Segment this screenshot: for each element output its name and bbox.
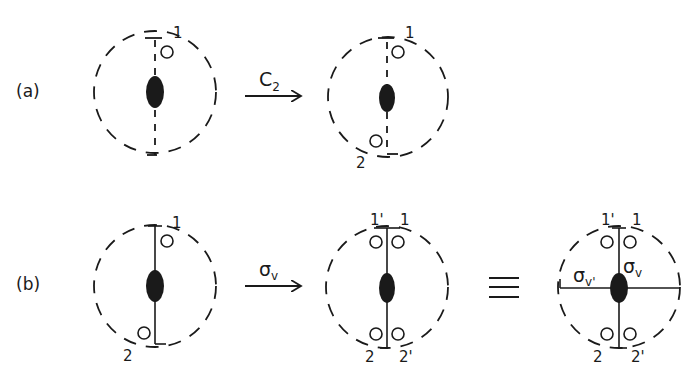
- ligand-circle-1: [161, 235, 173, 247]
- ligand-label-2: 2: [123, 347, 133, 365]
- ligand-label-2-prime: 2': [399, 348, 413, 366]
- ligand-label-1-prime: 1': [370, 211, 384, 229]
- ligand-label-1: 1: [632, 211, 642, 229]
- ligand-circle-2: [138, 327, 150, 339]
- row-label-a: (a): [16, 81, 40, 101]
- ligand-label-2-prime: 2': [631, 348, 645, 366]
- central-atom: [146, 270, 164, 302]
- ligand-circle-2-prime: [392, 328, 404, 340]
- orbital-diagram-a-before: 1: [94, 24, 216, 155]
- ligand-circle-1: [392, 236, 404, 248]
- equivalence-symbol: [489, 278, 519, 297]
- ligand-circle-1: [161, 46, 173, 58]
- ligand-label-2: 2: [593, 348, 603, 366]
- orbital-diagram-b-equivalent: 1' 1 2 2' σv σv': [558, 211, 680, 366]
- ligand-circle-2: [370, 135, 382, 147]
- operation-symbol: σv: [259, 258, 278, 283]
- ligand-label-2: 2: [356, 154, 366, 172]
- ligand-label-1: 1: [405, 24, 415, 42]
- operation-symbol: C2: [259, 68, 280, 94]
- orbital-diagram-b-after: 1' 1 2 2': [326, 211, 448, 366]
- orbital-diagram-b-before: 1 2: [94, 214, 216, 365]
- ligand-circle-1-prime: [370, 236, 382, 248]
- ligand-circle-2-prime: [624, 328, 636, 340]
- plane-label-sigma-v: σv: [623, 255, 642, 280]
- ligand-label-2: 2: [365, 348, 375, 366]
- central-atom: [146, 76, 164, 108]
- central-atom: [610, 273, 628, 303]
- central-atom: [379, 84, 395, 112]
- ligand-circle-1: [624, 236, 636, 248]
- ligand-circle-2: [601, 328, 613, 340]
- row-label-b: (b): [16, 274, 40, 294]
- ligand-label-1-prime: 1': [601, 211, 615, 229]
- ligand-label-1: 1: [400, 211, 410, 229]
- ligand-circle-1: [392, 46, 404, 58]
- central-atom: [379, 273, 395, 303]
- ligand-circle-1-prime: [601, 236, 613, 248]
- ligand-circle-2: [370, 328, 382, 340]
- symmetry-operations-diagram: (a) 1 C2 1 2 (b) 1 2: [0, 0, 697, 376]
- plane-label-sigma-v-prime: σv': [573, 264, 595, 289]
- ligand-label-1: 1: [173, 24, 183, 42]
- ligand-label-1: 1: [172, 214, 182, 232]
- operation-arrow-sigma-v: σv: [245, 258, 301, 286]
- orbital-diagram-a-after: 1 2: [328, 24, 448, 172]
- operation-arrow-c2: C2: [245, 68, 301, 96]
